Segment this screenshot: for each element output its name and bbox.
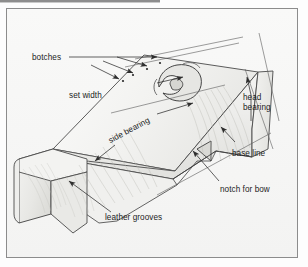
scroll-inner [170,79,183,90]
page-top-rule-2 [0,2,160,3]
end-block-round-edge [14,159,19,223]
figure-frame: botches set width head bearing base line… [6,8,298,258]
label-leather-grooves: leather grooves [105,213,162,223]
label-notch-for-bow: notch for bow [220,185,270,195]
label-head-bearing: head bearing [243,93,285,113]
figure-page: botches set width head bearing base line… [0,0,308,267]
label-botches: botches [32,53,61,63]
label-base-line: base line [232,149,265,159]
label-set-width: set width [69,91,102,101]
